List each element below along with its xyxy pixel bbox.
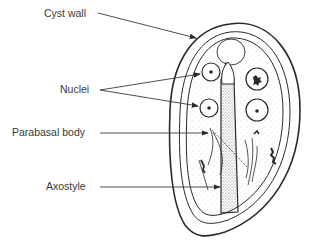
leader-nuclei-2 [100,90,198,106]
leader-cyst-wall [98,13,196,38]
vacuole [217,39,245,65]
nucleus-lower-left [200,99,218,117]
leader-nuclei-1 [100,74,200,90]
nucleus-lower-right [246,99,268,121]
cyst-illustration [0,0,321,252]
nucleus-upper-left [202,63,220,81]
nucleus-upper-right [246,68,268,90]
